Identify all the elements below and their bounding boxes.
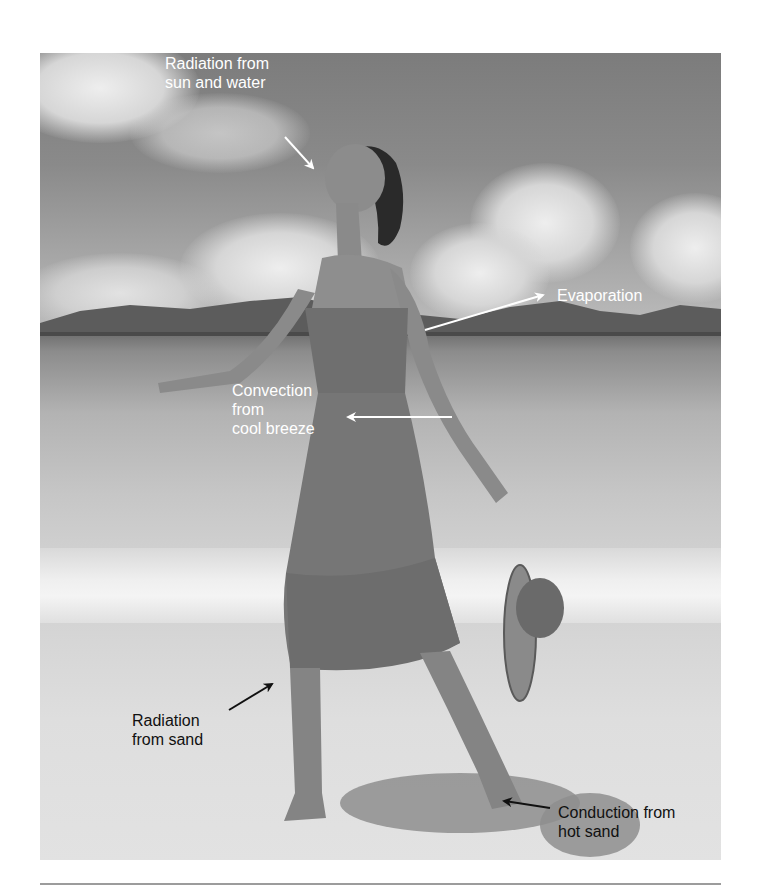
label-convection: Convection from cool breeze bbox=[232, 381, 315, 438]
label-conduction: Conduction from hot sand bbox=[558, 803, 675, 841]
label-radiation-sand: Radiation from sand bbox=[132, 711, 203, 749]
label-radiation-sun-water: Radiation from sun and water bbox=[165, 54, 269, 92]
label-evaporation: Evaporation bbox=[557, 286, 642, 305]
bottom-rule bbox=[40, 883, 721, 885]
